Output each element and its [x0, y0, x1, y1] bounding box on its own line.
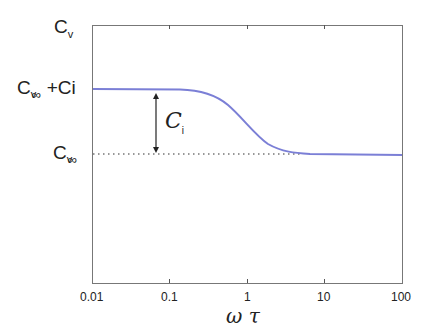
upper-level-c: C [17, 77, 31, 98]
ci-double-arrow [153, 93, 159, 153]
x-tick-0.01: 0.01 [80, 290, 103, 304]
y-axis-label-c: C [54, 16, 68, 37]
lower-level-sub: v [67, 153, 73, 165]
y-axis-label: Cv [54, 16, 73, 38]
y-axis-label-sub: v [68, 28, 74, 40]
ci-annotation-label: Ci [165, 108, 184, 133]
x-tick-100: 100 [391, 290, 411, 304]
x-tick-1: 1 [244, 290, 251, 304]
upper-level-plus: + [47, 77, 58, 98]
x-tick-10: 10 [317, 290, 330, 304]
x-axis-label: ω τ [226, 304, 260, 328]
plot-canvas [0, 0, 431, 334]
ci-label-c: C [165, 108, 182, 133]
upper-level-label: C∞v+Ci [17, 77, 76, 99]
lower-level-c: C [53, 142, 67, 163]
lower-level-label: C∞v [53, 142, 83, 164]
upper-level-ci: Ci [58, 77, 76, 98]
upper-level-sub: v [31, 88, 37, 100]
x-tick-0.1: 0.1 [161, 290, 178, 304]
ci-label-sub: i [182, 125, 184, 136]
cv-curve [93, 89, 402, 155]
